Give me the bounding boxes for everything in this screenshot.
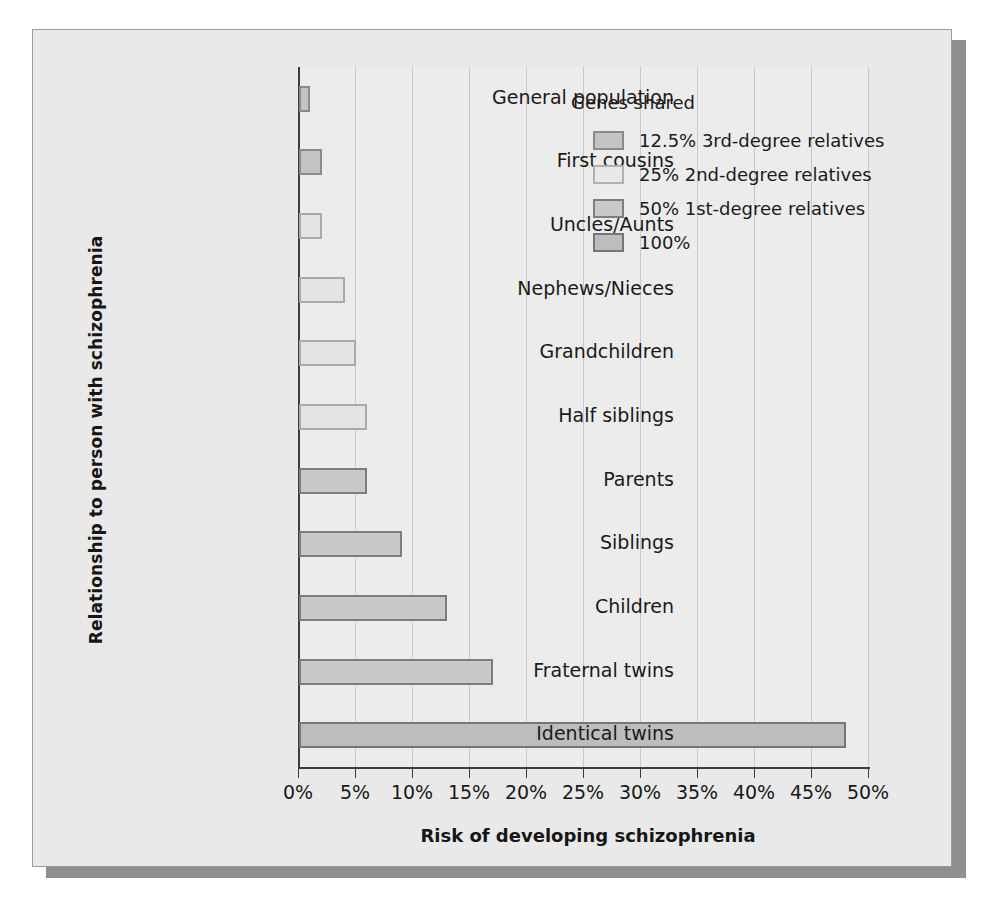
bar <box>299 531 402 557</box>
legend-swatch <box>593 199 624 218</box>
x-axis-tick <box>412 767 413 778</box>
legend-swatch <box>593 165 624 184</box>
x-axis-tick <box>754 767 755 778</box>
x-axis-tick <box>583 767 584 778</box>
bar <box>299 86 310 112</box>
y-axis-category-label: Parents <box>414 468 674 490</box>
figure: Relationship to person with schizophreni… <box>0 0 995 911</box>
y-axis-category-label: Identical twins <box>414 722 674 744</box>
bar <box>299 277 345 303</box>
legend-title: Genes shared <box>571 92 901 113</box>
bar <box>299 468 367 494</box>
x-axis-tick-label: 45% <box>781 781 841 803</box>
x-axis-tick-label: 15% <box>439 781 499 803</box>
x-axis-tick-label: 50% <box>838 781 898 803</box>
legend-entry: 12.5% 3rd-degree relatives <box>571 123 901 157</box>
y-axis-category-label: Siblings <box>414 531 674 553</box>
y-axis-category-label: Nephews/Nieces <box>414 277 674 299</box>
legend-entry: 25% 2nd-degree relatives <box>571 157 901 191</box>
x-axis-title: Risk of developing schizophrenia <box>298 825 878 846</box>
x-axis-tick-label: 25% <box>553 781 613 803</box>
x-axis-line <box>298 767 870 769</box>
bar <box>299 213 322 239</box>
x-axis-tick-label: 35% <box>667 781 727 803</box>
y-axis-category-label: Children <box>414 595 674 617</box>
x-axis-tick-label: 5% <box>325 781 385 803</box>
legend-entries: 12.5% 3rd-degree relatives25% 2nd-degree… <box>571 123 901 259</box>
y-axis-title: Relationship to person with schizophreni… <box>86 160 106 720</box>
bar <box>299 404 367 430</box>
x-axis-tick <box>355 767 356 778</box>
x-axis-tick-label: 20% <box>496 781 556 803</box>
x-axis-tick-label: 10% <box>382 781 442 803</box>
x-axis-tick <box>811 767 812 778</box>
legend-entry: 100% <box>571 225 901 259</box>
legend: Genes shared 12.5% 3rd-degree relatives2… <box>571 92 901 259</box>
x-axis-tick-label: 40% <box>724 781 784 803</box>
x-axis-tick <box>469 767 470 778</box>
x-axis-tick <box>298 767 299 778</box>
x-axis-tick <box>640 767 641 778</box>
chart-panel: Relationship to person with schizophreni… <box>32 29 952 867</box>
legend-entry-label: 12.5% 3rd-degree relatives <box>639 130 884 151</box>
legend-swatch <box>593 233 624 252</box>
x-axis-tick <box>868 767 869 778</box>
y-axis-category-label: Grandchildren <box>414 340 674 362</box>
legend-entry-label: 25% 2nd-degree relatives <box>639 164 872 185</box>
x-axis-tick-label: 0% <box>268 781 328 803</box>
bar <box>299 149 322 175</box>
legend-entry: 50% 1st-degree relatives <box>571 191 901 225</box>
y-axis-category-label: Half siblings <box>414 404 674 426</box>
legend-entry-label: 100% <box>639 232 690 253</box>
legend-swatch <box>593 131 624 150</box>
y-axis-category-label: Fraternal twins <box>414 659 674 681</box>
x-axis-tick <box>526 767 527 778</box>
bar <box>299 340 356 366</box>
x-axis-tick-label: 30% <box>610 781 670 803</box>
x-axis-tick <box>697 767 698 778</box>
legend-entry-label: 50% 1st-degree relatives <box>639 198 865 219</box>
